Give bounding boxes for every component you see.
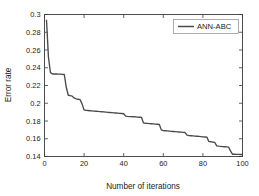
- y-tick-label: 0.14: [26, 152, 40, 161]
- chart-legend: ANN-ABC: [174, 20, 239, 34]
- error-rate-line-chart: 0.140.160.180.20.220.240.260.280.3 02040…: [0, 0, 259, 196]
- y-axis-title: Error rate: [4, 67, 13, 102]
- x-tick-label: 80: [199, 159, 207, 168]
- y-tick-label: 0.26: [26, 46, 40, 55]
- x-tick-label: 100: [236, 159, 248, 168]
- y-tick-label: 0.22: [26, 81, 40, 90]
- y-tick-label: 0.16: [26, 134, 40, 143]
- y-tick-label: 0.24: [26, 63, 40, 72]
- x-tick-label: 0: [42, 159, 46, 168]
- y-tick-label: 0.2: [30, 99, 40, 108]
- y-tick-label: 0.18: [26, 117, 40, 126]
- x-tick-label: 60: [159, 159, 167, 168]
- legend-label-ann-abc: ANN-ABC: [197, 22, 232, 31]
- chart-figure: 0.140.160.180.20.220.240.260.280.3 02040…: [0, 0, 259, 196]
- y-axis-tick-labels: 0.140.160.180.20.220.240.260.280.3: [26, 10, 40, 161]
- x-tick-label: 20: [80, 159, 88, 168]
- y-tick-label: 0.3: [30, 10, 40, 19]
- y-tick-label: 0.28: [26, 28, 40, 37]
- x-tick-label: 40: [120, 159, 128, 168]
- x-axis-title: Number of iterations: [106, 182, 180, 191]
